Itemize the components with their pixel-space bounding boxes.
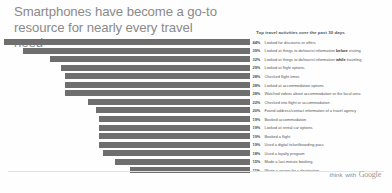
table-row: 32%Looked at things to do/tourist inform… (0, 55, 392, 64)
bar-category-label: Checked flight times (264, 74, 300, 79)
bar (99, 142, 250, 148)
table-row: 18%Used a loyalty program (0, 149, 392, 158)
bar-value-label: 28% (250, 91, 264, 96)
bar-track (0, 132, 250, 141)
bar-value-label: 29% (250, 65, 264, 70)
bar (50, 56, 250, 62)
brand-lockup: think with Google (330, 170, 381, 179)
bar-track (0, 64, 250, 73)
bar-value-label: 22% (250, 100, 264, 105)
bar (103, 150, 250, 156)
bar-chart: Top travel activities over the past 30 d… (0, 36, 392, 166)
table-row: 20%Found address/contact information of … (0, 106, 392, 115)
table-row: 19%Booked a flight (0, 132, 392, 141)
table-row: 44%Looked for discounts or offers (0, 38, 392, 47)
bar-value-label: 19% (250, 117, 264, 122)
bar (23, 48, 250, 54)
bar-track (0, 72, 250, 81)
bar-category-label: Used a digital ticket/boarding pass (264, 142, 324, 147)
bar-track (0, 115, 250, 124)
bar-category-label: Looked at rental car options (264, 125, 313, 130)
bar (88, 99, 250, 105)
bar-track (0, 98, 250, 107)
bar (99, 116, 250, 122)
bar-value-label: 44% (250, 40, 264, 45)
table-row: 28%Checked flight times (0, 72, 392, 81)
bar-value-label: 28% (250, 83, 264, 88)
bar-value-label: 18% (250, 151, 264, 156)
bar-category-label: Looked at flight options (264, 65, 305, 70)
bar-track (0, 47, 250, 56)
bar-category-label: Booked a flight (264, 134, 291, 139)
table-row: 19%Looked at rental car options (0, 123, 392, 132)
bar-value-label: 19% (250, 134, 264, 139)
bar-category-label: Looked for discounts or offers (264, 40, 316, 45)
bar-value-label: 19% (250, 125, 264, 130)
bar-category-label: Looked at things to do/tourist informati… (264, 48, 361, 53)
bar-value-label: 20% (250, 108, 264, 113)
table-row: 39%Looked at things to do/tourist inform… (0, 47, 392, 56)
brand-think: think (330, 171, 343, 178)
bar (99, 133, 250, 139)
bar-track (0, 141, 250, 150)
bar (115, 159, 250, 165)
bar-value-label: 19% (250, 142, 264, 147)
bar-track (0, 38, 250, 47)
bar-value-label: 32% (250, 57, 264, 62)
table-row: 29%Looked at flight options (0, 64, 392, 73)
bar-category-label: Used a loyalty program (264, 151, 305, 156)
bar-track (0, 55, 250, 64)
bar-category-label: Looked at accommodation options (264, 83, 324, 88)
bar-track (0, 123, 250, 132)
bar (4, 39, 250, 45)
bar-track (0, 81, 250, 90)
table-row: 28%Watched videos about accommodation or… (0, 89, 392, 98)
table-row: 28%Looked at accommodation options (0, 81, 392, 90)
table-row: 22%Checked into flight or accommodation (0, 98, 392, 107)
table-row: 15%Made a last-minute booking (0, 158, 392, 167)
bar-row-list: 44%Looked for discounts or offers39%Look… (0, 38, 392, 175)
bar-track (0, 89, 250, 98)
brand-with: with (345, 171, 356, 178)
brand-google: Google (359, 170, 381, 179)
footer-divider (8, 171, 384, 172)
bar (99, 125, 250, 131)
bar-track (0, 158, 250, 167)
bar-category-label: Booked accommodation (264, 117, 307, 122)
infographic-canvas: Smartphones have become a go-to resource… (0, 0, 392, 193)
bar-category-label: Watched videos about accommodation or th… (264, 91, 361, 96)
bar-category-label: Looked at things to do/tourist informati… (264, 57, 362, 62)
bar (96, 107, 250, 113)
bar-track (0, 106, 250, 115)
bar (61, 65, 250, 71)
bar-category-label: Checked into flight or accommodation (264, 100, 330, 105)
chart-title: Top travel activities over the past 30 d… (256, 30, 345, 35)
bar (65, 73, 250, 79)
bar-category-label: Found address/contact information of a t… (264, 108, 357, 113)
table-row: 19%Used a digital ticket/boarding pass (0, 141, 392, 150)
bar-value-label: 15% (250, 159, 264, 164)
bar-category-label: Made a last-minute booking (264, 159, 313, 164)
table-row: 19%Booked accommodation (0, 115, 392, 124)
bar-track (0, 149, 250, 158)
bar-value-label: 28% (250, 74, 264, 79)
bar-value-label: 39% (250, 48, 264, 53)
bar (65, 90, 250, 96)
bar (65, 82, 250, 88)
